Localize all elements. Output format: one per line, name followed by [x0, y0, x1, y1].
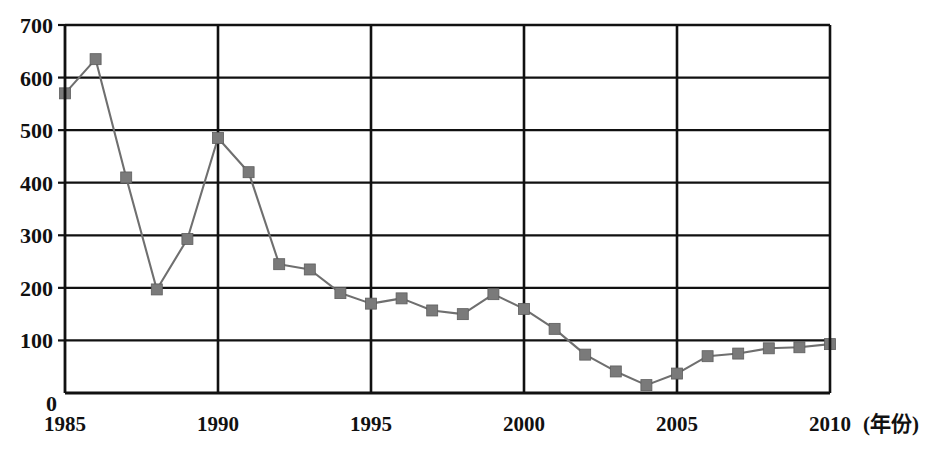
- axis-frame: [58, 25, 830, 393]
- data-point-marker[interactable]: [672, 368, 683, 379]
- data-point-marker[interactable]: [763, 343, 774, 354]
- data-point[interactable]: [488, 289, 499, 300]
- data-point[interactable]: [641, 380, 652, 391]
- axis-labels: 1002003004005006007000198519901995200020…: [20, 13, 919, 436]
- data-point-marker[interactable]: [549, 323, 560, 334]
- data-point-marker[interactable]: [610, 366, 621, 377]
- xtick-label: 2010: [809, 412, 851, 436]
- data-point-marker[interactable]: [580, 349, 591, 360]
- ytick-label: 700: [20, 13, 53, 38]
- data-point[interactable]: [457, 309, 468, 320]
- ytick-label: 200: [20, 276, 53, 301]
- data-point[interactable]: [182, 233, 193, 244]
- data-point-marker[interactable]: [243, 167, 254, 178]
- data-point[interactable]: [243, 167, 254, 178]
- data-point[interactable]: [90, 54, 101, 65]
- data-point-marker[interactable]: [427, 305, 438, 316]
- ytick-label: 600: [20, 66, 53, 91]
- data-point[interactable]: [794, 342, 805, 353]
- data-point-marker[interactable]: [335, 288, 346, 299]
- data-point-marker[interactable]: [182, 233, 193, 244]
- data-point-marker[interactable]: [90, 54, 101, 65]
- data-point[interactable]: [121, 172, 132, 183]
- data-point-marker[interactable]: [151, 284, 162, 295]
- ytick-label: 500: [20, 118, 53, 143]
- data-point[interactable]: [366, 298, 377, 309]
- ytick-label: 100: [20, 328, 53, 353]
- data-point-marker[interactable]: [121, 172, 132, 183]
- data-point[interactable]: [274, 259, 285, 270]
- grid-lines: [65, 25, 830, 393]
- data-point[interactable]: [580, 349, 591, 360]
- xtick-label: 1985: [44, 412, 86, 436]
- data-point[interactable]: [335, 288, 346, 299]
- data-point-marker[interactable]: [213, 133, 224, 144]
- data-point[interactable]: [610, 366, 621, 377]
- data-point[interactable]: [702, 351, 713, 362]
- data-point[interactable]: [549, 323, 560, 334]
- data-point[interactable]: [763, 343, 774, 354]
- data-point-marker[interactable]: [794, 342, 805, 353]
- data-point-marker[interactable]: [396, 293, 407, 304]
- data-point-marker[interactable]: [702, 351, 713, 362]
- data-point[interactable]: [304, 264, 315, 275]
- data-point-marker[interactable]: [457, 309, 468, 320]
- data-point[interactable]: [151, 284, 162, 295]
- data-point[interactable]: [396, 293, 407, 304]
- xtick-label: 2005: [656, 412, 698, 436]
- xtick-label: 1995: [350, 412, 392, 436]
- data-point-marker[interactable]: [274, 259, 285, 270]
- data-point-marker[interactable]: [733, 348, 744, 359]
- line-chart: 1002003004005006007000198519901995200020…: [0, 0, 941, 452]
- data-line: [65, 59, 830, 385]
- ytick-label: 300: [20, 223, 53, 248]
- xtick-label: 1990: [197, 412, 239, 436]
- data-point-marker[interactable]: [641, 380, 652, 391]
- ytick-label: 400: [20, 171, 53, 196]
- data-point-marker[interactable]: [366, 298, 377, 309]
- data-point[interactable]: [672, 368, 683, 379]
- data-point[interactable]: [213, 133, 224, 144]
- xtick-label: 2000: [503, 412, 545, 436]
- chart-container: 1002003004005006007000198519901995200020…: [0, 0, 941, 452]
- data-point[interactable]: [427, 305, 438, 316]
- x-axis-caption: (年份): [863, 412, 919, 436]
- data-point[interactable]: [519, 303, 530, 314]
- data-point-marker[interactable]: [488, 289, 499, 300]
- data-point-marker[interactable]: [519, 303, 530, 314]
- data-point[interactable]: [733, 348, 744, 359]
- data-point-marker[interactable]: [304, 264, 315, 275]
